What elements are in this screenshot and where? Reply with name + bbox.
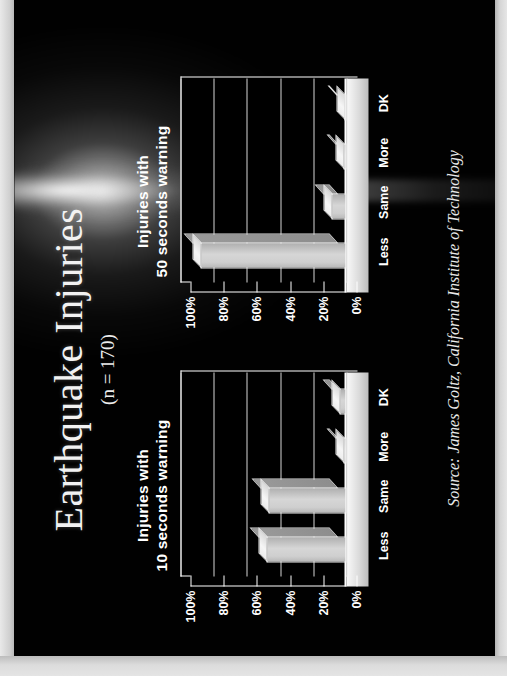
bar-face [268,487,346,513]
gridline-100% [180,372,181,576]
axis-tick [323,575,324,586]
y-axis-label-100%: 100% [183,590,197,622]
y-axis-label-80%: 80% [216,590,230,615]
gridline-60% [246,372,247,576]
plot-area-50s: 100%80%60%40%20%0% LessSameMoreDK [180,78,368,292]
bar-less [266,536,346,562]
category-label-less: Less [376,531,390,560]
slide-canvas-rotated: Earthquake Injuries (n = 170) Injuries w… [14,0,495,656]
sample-size-note: (n = 170) [96,134,118,604]
axis-tick [323,281,324,292]
axis-tick [290,281,291,292]
axis-tick [290,575,291,586]
y-axis-label-60%: 60% [249,296,263,321]
y-axis-label-80%: 80% [216,296,230,321]
gridline-100% [180,78,181,282]
bar-same [331,193,346,219]
bar-face [331,193,346,219]
bar-more [343,143,346,169]
plot-floor-10s [346,372,368,586]
bar-dk [339,388,346,414]
chart-title-50s-line2: 50 seconds warning [151,66,170,336]
chart-title-50s: Injuries with 50 seconds warning [132,66,170,336]
plot-area-10s: 100%80%60%40%20%0% LessSameMoreDK [180,372,368,586]
bar-face [339,388,346,414]
category-label-same: Same [376,185,390,218]
category-label-more: More [376,137,390,167]
axis-tick [190,575,191,586]
bar-face [343,437,346,463]
axis-tick [256,575,257,586]
y-axis-label-20%: 20% [316,590,330,615]
bar-dk [344,94,346,120]
y-axis-label-0%: 0% [349,296,363,314]
axis-tick [223,281,224,292]
bar-face [200,242,346,268]
y-axis-label-100%: 100% [183,296,197,328]
page-border-left [0,0,14,676]
axis-tick [356,575,357,586]
category-label-dk: DK [376,94,390,112]
y-axis-label-60%: 60% [249,590,263,615]
axis-tick [256,281,257,292]
presentation-slide: Earthquake Injuries (n = 170) Injuries w… [14,0,495,656]
bar-face [343,143,346,169]
gridline-80% [213,372,214,576]
slide-page: Earthquake Injuries (n = 170) Injuries w… [0,0,507,676]
bar-face [344,94,346,120]
source-citation: Source: James Goltz, California Institut… [444,0,462,656]
page-border-bottom [0,656,507,676]
plot-floor-50s [346,78,368,292]
bar-same [268,487,346,513]
category-label-same: Same [376,479,390,512]
chart-title-50s-line1: Injuries with [132,66,151,336]
category-label-less: Less [376,237,390,266]
bar-less [200,242,346,268]
chart-panel-50s: Injuries with 50 seconds warning 100%80%… [132,66,422,336]
chart-title-10s-line2: 10 seconds warning [151,360,170,630]
axis-tick [356,281,357,292]
chart-title-10s-line1: Injuries with [132,360,151,630]
axis-tick [190,281,191,292]
y-axis-label-40%: 40% [283,590,297,615]
chart-title-10s: Injuries with 10 seconds warning [132,360,170,630]
bar-face [266,536,346,562]
y-axis-label-0%: 0% [349,590,363,608]
page-border-right [495,0,507,676]
chart-panel-10s: Injuries with 10 seconds warning 100%80%… [132,360,422,630]
bar-side [183,233,338,243]
page-title: Earthquake Injuries [44,134,91,604]
bar-more [343,437,346,463]
axis-tick [223,575,224,586]
category-label-dk: DK [376,388,390,406]
category-label-more: More [376,431,390,461]
y-axis-label-20%: 20% [316,296,330,321]
y-axis-label-40%: 40% [283,296,297,321]
